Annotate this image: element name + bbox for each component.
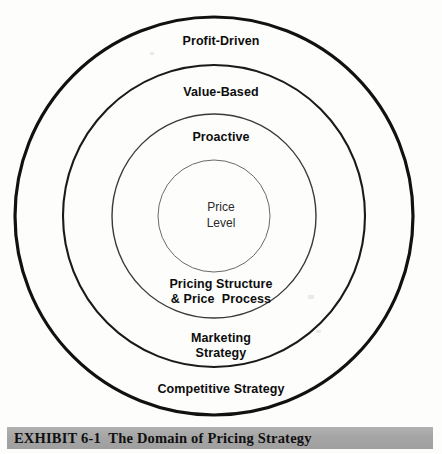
- label-price-level: Price Level: [0, 199, 442, 231]
- exhibit-figure: Profit-Driven Value-Based Proactive Pric…: [0, 0, 442, 454]
- exhibit-caption-bar: EXHIBIT 6-1 The Domain of Pricing Strate…: [7, 427, 433, 449]
- concentric-circles-diagram: Profit-Driven Value-Based Proactive Pric…: [0, 0, 442, 420]
- exhibit-caption-text: EXHIBIT 6-1 The Domain of Pricing Strate…: [14, 431, 312, 446]
